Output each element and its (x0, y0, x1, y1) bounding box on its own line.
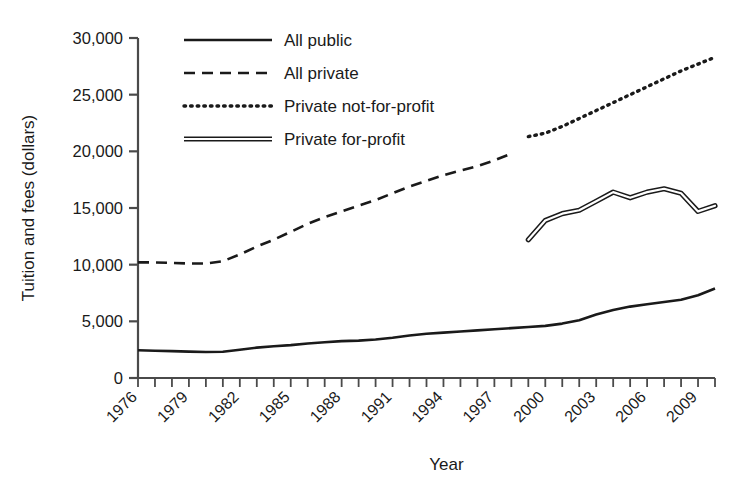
x-axis-tick-label: 1979 (154, 388, 191, 425)
x-axis-tick-label: 1985 (256, 388, 293, 425)
y-axis-tick-label: 20,000 (73, 142, 123, 160)
series-line-3 (528, 189, 715, 240)
series-line-2 (528, 57, 715, 136)
x-axis-tick-label: 1988 (307, 388, 344, 425)
legend-item-label: All public (284, 31, 353, 50)
chart-canvas: 05,00010,00015,00020,00025,00030,000 197… (0, 0, 751, 487)
axis-titles: Tuition and fees (dollars)Year (19, 115, 464, 474)
series-line-outer (528, 189, 715, 240)
legend-item-label: All private (284, 64, 359, 83)
series-line-0 (138, 288, 715, 351)
x-axis-tick-label: 1994 (408, 388, 445, 425)
x-axis: 1976197919821985198819911994199720002003… (103, 378, 715, 425)
x-axis-tick-label: 2003 (561, 388, 598, 425)
x-axis-tick-label: 2009 (663, 388, 700, 425)
x-axis-title: Year (429, 455, 464, 474)
x-axis-tick-label: 1991 (357, 388, 394, 425)
x-axis-tick-label: 1982 (205, 388, 242, 425)
x-axis-tick-label: 1997 (459, 388, 496, 425)
y-axis-tick-label: 0 (114, 369, 123, 387)
y-axis: 05,00010,00015,00020,00025,00030,000 (73, 29, 138, 387)
y-axis-tick-label: 25,000 (73, 86, 123, 104)
series-line-1 (138, 154, 511, 264)
chart-legend: All publicAll privatePrivate not-for-pro… (184, 31, 434, 149)
legend-item-3[interactable]: Private for-profit (184, 130, 405, 149)
y-axis-tick-label: 10,000 (73, 256, 123, 274)
x-axis-tick-label: 2006 (612, 388, 649, 425)
x-axis-tick-label: 1976 (103, 388, 140, 425)
legend-item-0[interactable]: All public (184, 31, 353, 50)
tuition-and-fees-line-chart: 05,00010,00015,00020,00025,00030,000 197… (0, 0, 751, 487)
legend-item-label: Private not-for-profit (284, 97, 434, 116)
y-axis-tick-label: 30,000 (73, 29, 123, 47)
y-axis-title: Tuition and fees (dollars) (19, 115, 38, 301)
y-axis-tick-label: 15,000 (73, 199, 123, 217)
x-axis-tick-label: 2000 (510, 388, 547, 425)
legend-item-1[interactable]: All private (184, 64, 359, 83)
y-axis-tick-label: 5,000 (82, 312, 123, 330)
legend-item-label: Private for-profit (284, 130, 405, 149)
legend-item-2[interactable]: Private not-for-profit (184, 97, 434, 116)
